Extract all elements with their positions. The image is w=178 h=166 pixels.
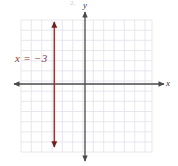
figure-number: 2.: [70, 0, 75, 7]
line-equation-label: x = −3: [15, 53, 48, 64]
coordinate-plane-figure: 2. x y x = −3: [0, 0, 178, 166]
grid-lines: [21, 20, 152, 152]
graph-canvas: [0, 0, 178, 166]
x-axis-label: x: [166, 79, 170, 88]
y-axis-label: y: [83, 1, 87, 10]
